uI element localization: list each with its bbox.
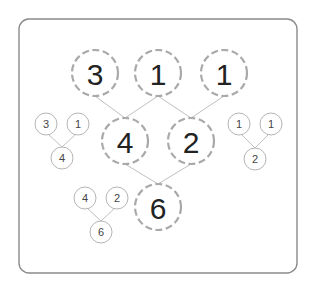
small-node-label: 6 (98, 226, 104, 238)
small-node-label: 1 (75, 118, 81, 130)
main-node-middle-1: 4 (102, 118, 148, 164)
small-node-label: 2 (114, 192, 120, 204)
small-node-label: 1 (268, 118, 274, 130)
main-node-top-3: 1 (201, 50, 247, 96)
small-node-label: 4 (82, 192, 88, 204)
small-node-label: 4 (59, 152, 65, 164)
node-label: 2 (183, 126, 200, 159)
node-label: 3 (87, 58, 104, 91)
node-label: 1 (216, 58, 233, 91)
number-pyramid-diagram: 3 1 1 4 2 6 3 1 (0, 0, 315, 288)
small-node-label: 2 (252, 153, 258, 165)
node-label: 1 (150, 58, 167, 91)
small-node-label: 1 (236, 118, 242, 130)
main-node-top-2: 1 (135, 50, 181, 96)
diagram-stage: 3 1 1 4 2 6 3 1 (0, 0, 315, 288)
node-label: 6 (150, 192, 167, 225)
main-node-middle-2: 2 (168, 118, 214, 164)
small-node-label: 3 (43, 118, 49, 130)
main-node-bottom: 6 (135, 184, 181, 230)
node-label: 4 (117, 126, 134, 159)
main-node-top-1: 3 (72, 50, 118, 96)
